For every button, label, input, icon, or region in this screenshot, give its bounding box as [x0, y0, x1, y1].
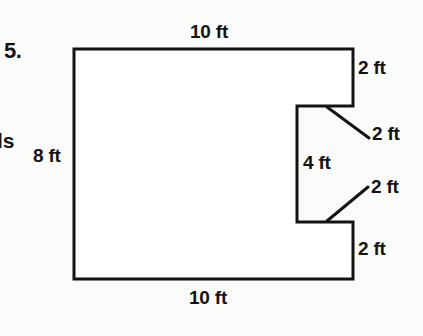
margin-text-fragment: ls: [0, 130, 14, 151]
dimension-label-notch-height: 4 ft: [303, 153, 331, 172]
figure-page: 5. ls 10 ft 10 ft 8 ft 4 ft 2 ft 2 ft 2 …: [0, 0, 423, 336]
dimension-label-right-lower: 2 ft: [358, 239, 386, 258]
leader-line-upper-notch: [327, 107, 369, 138]
dimension-label-left: 8 ft: [33, 146, 61, 165]
dimension-label-notch-top-depth: 2 ft: [372, 124, 400, 143]
dimension-label-notch-bottom-depth: 2 ft: [371, 177, 399, 196]
dimension-label-bottom: 10 ft: [189, 288, 227, 307]
dimension-label-right-upper: 2 ft: [358, 58, 386, 77]
dimension-label-top: 10 ft: [190, 22, 228, 41]
problem-number: 5.: [4, 40, 21, 62]
notched-rectangle-figure: [0, 0, 423, 336]
leader-line-lower-notch: [327, 187, 368, 221]
